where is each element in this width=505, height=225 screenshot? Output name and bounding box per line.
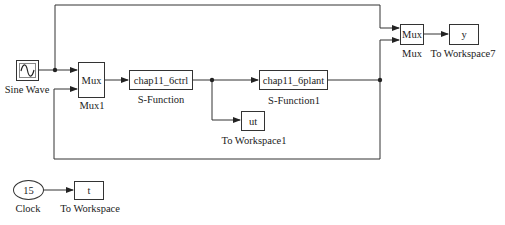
to-workspace-text: t bbox=[88, 185, 91, 196]
to-workspace1-block[interactable]: ut bbox=[241, 111, 265, 131]
to-workspace-label: To Workspace bbox=[60, 203, 120, 214]
simulink-canvas: Sine Wave Mux Mux1 chap11_6ctrl S-Functi… bbox=[0, 0, 505, 225]
mux1-block[interactable]: Mux bbox=[78, 62, 105, 98]
s-function-text: chap11_6ctrl bbox=[134, 75, 188, 86]
s-function1-text: chap11_6plant bbox=[263, 75, 324, 86]
to-workspace1-text: ut bbox=[249, 116, 257, 127]
signal-sine-to-mux bbox=[55, 5, 399, 70]
s-function1-label: S-Function1 bbox=[268, 95, 320, 106]
mux1-label: Mux1 bbox=[79, 100, 104, 111]
signal-sfun1-to-mux bbox=[380, 40, 399, 80]
sine-wave-block[interactable] bbox=[16, 60, 39, 81]
mux-text: Mux bbox=[402, 29, 422, 40]
s-function-label: S-Function bbox=[138, 94, 185, 105]
sine-wave-icon bbox=[19, 63, 36, 78]
clock-label: Clock bbox=[15, 203, 40, 214]
junction-dot bbox=[378, 78, 382, 82]
to-workspace7-label: To Workspace7 bbox=[431, 48, 496, 59]
s-function1-block[interactable]: chap11_6plant bbox=[259, 70, 328, 90]
to-workspace1-label: To Workspace1 bbox=[222, 135, 287, 146]
mux-label: Mux bbox=[402, 48, 422, 59]
s-function-block[interactable]: chap11_6ctrl bbox=[129, 70, 193, 90]
sine-wave-label: Sine Wave bbox=[5, 84, 50, 95]
to-workspace-block[interactable]: t bbox=[74, 181, 104, 200]
mux-block[interactable]: Mux bbox=[400, 24, 424, 45]
junction-dot bbox=[53, 68, 57, 72]
mux1-text: Mux bbox=[82, 75, 102, 86]
to-workspace7-block[interactable]: y bbox=[449, 24, 479, 45]
signal-sfun-to-ut bbox=[212, 80, 240, 120]
clock-block[interactable]: 15 bbox=[13, 180, 44, 200]
junction-dot bbox=[210, 78, 214, 82]
to-workspace7-text: y bbox=[461, 29, 466, 40]
clock-text: 15 bbox=[23, 185, 34, 196]
